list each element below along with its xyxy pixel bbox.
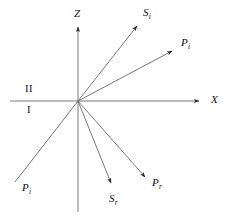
region-lower-label-text: I [27, 104, 31, 115]
incident-p-wave-ray [15, 101, 78, 182]
transmitted-s-wave-label: Si [143, 7, 151, 18]
reflected-s-wave-label-subscript: r [115, 198, 118, 207]
x-axis-label: X [211, 94, 218, 105]
reflected-s-wave-ray [78, 101, 111, 183]
reflected-s-wave-label: Sr [109, 193, 117, 204]
ray-diagram-figure: Z X II I Si Pi Pi Sr Pr [0, 0, 230, 218]
transmitted-s-wave-label-text: S [143, 6, 149, 18]
z-axis-label-text: Z [74, 7, 80, 19]
transmitted-s-wave-label-subscript: i [149, 12, 151, 21]
reflected-s-wave-label-text: S [109, 192, 115, 204]
incident-p-wave-label-subscript: i [29, 187, 31, 196]
transmitted-p-wave-label-subscript: i [188, 42, 190, 51]
region-lower-label: I [27, 105, 31, 116]
transmitted-p-wave-label-text: P [181, 36, 188, 48]
reflected-p-wave-label: Pr [152, 177, 162, 188]
region-upper-label-text: II [25, 83, 33, 94]
ray-diagram-canvas [0, 0, 230, 218]
transmitted-p-wave-label: Pi [181, 37, 190, 48]
transmitted-p-wave-ray [78, 51, 172, 101]
incident-p-wave-label-text: P [22, 181, 29, 193]
reflected-p-wave-label-text: P [152, 176, 159, 188]
z-axis-label: Z [74, 8, 80, 19]
transmitted-s-wave-ray [78, 26, 137, 101]
reflected-p-wave-label-subscript: r [159, 182, 162, 191]
x-axis-label-text: X [211, 93, 218, 105]
reflected-p-wave-ray [78, 101, 145, 177]
region-upper-label: II [25, 84, 33, 95]
incident-p-wave-label: Pi [22, 182, 31, 193]
